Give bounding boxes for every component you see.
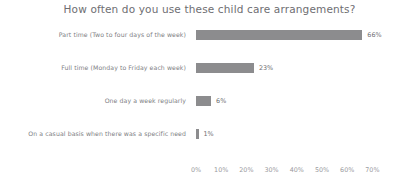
bar-category-row: On a casual basis when there was a speci…	[0, 129, 419, 162]
bar-value-label: 6%	[216, 96, 226, 106]
bar-category-label: Part time (Two to four days of the week)	[0, 31, 186, 39]
x-axis-tick-label: 70%	[365, 166, 379, 174]
x-axis: 0%10%20%30%40%50%60%70%	[0, 166, 419, 180]
bar-category-row: Part time (Two to four days of the week)…	[0, 30, 419, 63]
bar-category-row: Full time (Monday to Friday each week)23…	[0, 63, 419, 96]
bar	[196, 30, 362, 40]
bar	[196, 129, 199, 139]
x-axis-tick-label: 10%	[214, 166, 228, 174]
bar-value-label: 66%	[367, 30, 381, 40]
bar-category-label: Full time (Monday to Friday each week)	[0, 64, 186, 72]
x-axis-tick-label: 50%	[315, 166, 329, 174]
plot-area: Part time (Two to four days of the week)…	[0, 30, 419, 160]
bar-chart: How often do you use these child care ar…	[0, 0, 419, 193]
bar	[196, 63, 254, 73]
x-axis-tick-label: 30%	[264, 166, 278, 174]
x-axis-tick-label: 0%	[191, 166, 201, 174]
bar-value-label: 23%	[259, 63, 273, 73]
bar-category-label: One day a week regularly	[0, 97, 186, 105]
bar-category-row: One day a week regularly6%	[0, 96, 419, 129]
bar	[196, 96, 211, 106]
x-axis-tick-label: 20%	[239, 166, 253, 174]
x-axis-tick-label: 40%	[290, 166, 304, 174]
bar-category-label: On a casual basis when there was a speci…	[0, 130, 186, 138]
bar-value-label: 1%	[204, 129, 214, 139]
chart-title: How often do you use these child care ar…	[0, 3, 419, 15]
x-axis-tick-label: 60%	[340, 166, 354, 174]
